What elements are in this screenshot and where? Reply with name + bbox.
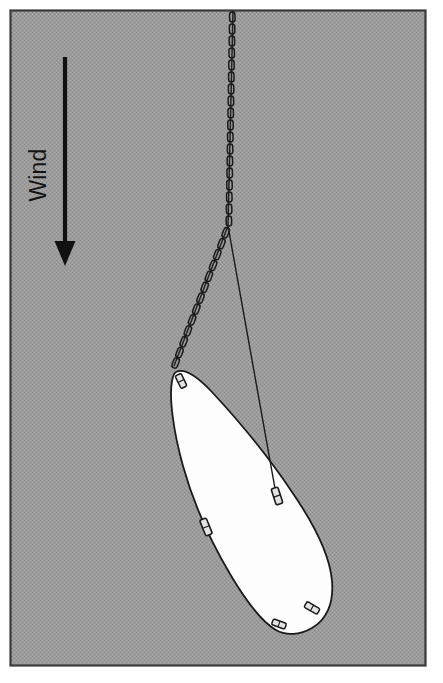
frame-border: [11, 11, 426, 666]
wind-kite-diagram: Wind: [0, 0, 443, 683]
diagram-frame: [11, 11, 426, 666]
wind-label: Wind: [25, 148, 51, 201]
figure-root: Wind: [0, 0, 443, 683]
